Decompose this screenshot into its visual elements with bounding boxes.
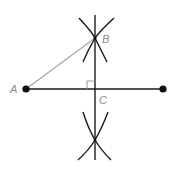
point-lower-intersection [94,139,97,142]
label-c: C [99,94,107,106]
label-b: B [102,33,109,45]
upper-arc-from-right [83,18,114,62]
right-angle-marker [87,81,95,89]
point-right-endpoint [159,85,166,92]
diagram-canvas: A B C [0,0,179,175]
label-a: A [9,83,17,95]
construction-figure: A B C [0,0,179,175]
point-b [93,36,96,39]
point-a [22,85,29,92]
segment-ab [26,38,95,89]
